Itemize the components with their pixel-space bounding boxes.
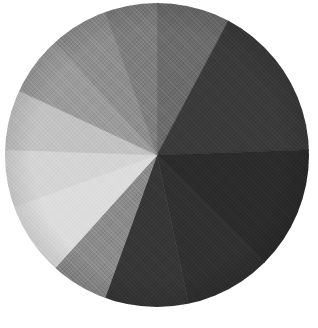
pie-chart-svg [0, 0, 318, 328]
pie-chart-figure [0, 0, 318, 328]
pie-edge-shading [5, 3, 309, 307]
